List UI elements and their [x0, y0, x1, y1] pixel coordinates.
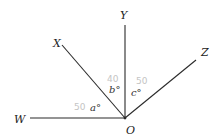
annotation-a-value: 50: [74, 102, 86, 112]
label-Z: Z: [200, 46, 209, 59]
angle-b-label: b°: [109, 84, 120, 95]
angle-c-label: c°: [131, 87, 142, 98]
label-W: W: [14, 113, 27, 126]
angle-a-label: a°: [90, 102, 101, 113]
annotation-b-value: 40: [107, 74, 119, 84]
label-X: X: [52, 37, 62, 50]
angle-diagram: Y X Z W O a° b° c° 50 40 50: [0, 0, 221, 140]
annotation-c-value: 50: [136, 76, 148, 86]
label-Y: Y: [120, 9, 129, 22]
vertex-dot: [124, 117, 127, 120]
label-O: O: [126, 124, 135, 137]
